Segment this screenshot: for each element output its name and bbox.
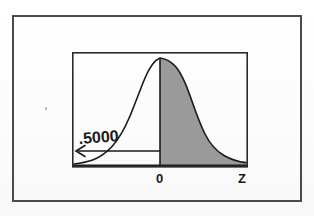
area-annotation-label: .5000 [78, 127, 119, 147]
figure-scan: .5000 0 Z [0, 0, 314, 216]
scan-speck-artifact [45, 107, 47, 110]
normal-curve-svg: .5000 [72, 52, 248, 170]
normal-curve-plot: .5000 [72, 52, 248, 170]
shaded-right-half-region [160, 58, 246, 165]
x-axis-label-zero: 0 [156, 172, 163, 185]
x-axis-label-variable: Z [238, 172, 246, 185]
